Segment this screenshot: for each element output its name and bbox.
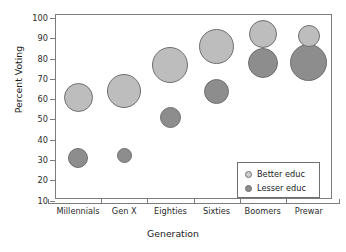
lesser-educ-swatch-icon xyxy=(245,185,252,192)
y-tick-mark xyxy=(50,180,55,181)
x-tick-mark xyxy=(240,199,241,204)
y-tick-label: 90 xyxy=(22,34,48,42)
legend-label: Lesser educ xyxy=(257,184,306,192)
y-tick-mark xyxy=(50,201,55,202)
y-tick-mark xyxy=(50,59,55,60)
legend-label: Better educ xyxy=(257,170,305,178)
y-tick-mark xyxy=(50,140,55,141)
x-tick-mark xyxy=(286,199,287,204)
legend-item-lesser-educ: Lesser educ xyxy=(245,181,319,195)
x-tick-mark xyxy=(101,199,102,204)
bubble-lesser-sixties xyxy=(204,79,229,104)
y-tick-label: 10 xyxy=(22,197,48,205)
bubble-better-millennials xyxy=(64,83,93,112)
bubble-lesser-millennials xyxy=(68,148,88,168)
bubble-better-prewar xyxy=(298,25,320,47)
y-tick-label: 30 xyxy=(22,156,48,164)
bubble-better-boomers xyxy=(249,20,277,48)
y-tick-mark xyxy=(50,79,55,80)
y-tick-label: 70 xyxy=(22,75,48,83)
y-tick-mark xyxy=(50,119,55,120)
x-axis-title: Generation xyxy=(0,228,346,239)
bubble-better-gen-x xyxy=(107,74,141,108)
bubble-chart-figure: 100908070605040302010 Percent Voting Gen… xyxy=(0,0,346,252)
x-tick-mark xyxy=(48,199,49,204)
bubble-better-sixties xyxy=(199,29,234,64)
x-tick-mark xyxy=(147,199,148,204)
y-tick-label: 40 xyxy=(22,136,48,144)
y-axis-title: Percent Voting xyxy=(13,20,24,140)
chart-legend: Better educ Lesser educ xyxy=(237,162,320,198)
bubble-better-eighties xyxy=(152,47,188,83)
y-tick-label: 60 xyxy=(22,95,48,103)
x-tick-mark xyxy=(194,199,195,204)
y-tick-mark xyxy=(50,38,55,39)
y-tick-mark xyxy=(50,99,55,100)
better-educ-swatch-icon xyxy=(245,171,252,178)
y-tick-mark xyxy=(50,18,55,19)
y-tick-label: 80 xyxy=(22,55,48,63)
y-tick-label: 20 xyxy=(22,176,48,184)
y-tick-label: 100 xyxy=(22,14,48,22)
bubble-lesser-boomers xyxy=(248,48,278,78)
x-tick-label-prewar: Prewar xyxy=(269,207,346,215)
y-tick-label: 50 xyxy=(22,115,48,123)
x-tick-mark xyxy=(339,199,340,204)
bubble-lesser-eighties xyxy=(160,107,181,128)
y-tick-mark xyxy=(50,160,55,161)
legend-item-better-educ: Better educ xyxy=(245,167,319,181)
